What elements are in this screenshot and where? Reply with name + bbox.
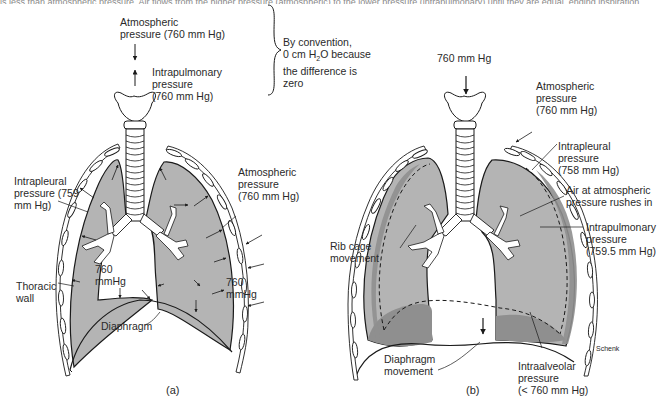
label-intrapulmonary-pressure-b: Intrapulmonary pressure (759.5 mm Hg) bbox=[586, 221, 656, 257]
label-thoracic-wall: Thoracic wall bbox=[16, 280, 56, 304]
panel-a-caption: (a) bbox=[166, 384, 179, 396]
label-intrapulmonary-pressure-a: Intrapulmonary pressure (760 mm Hg) bbox=[152, 66, 222, 102]
label-760-mmhg-b: 760 mm Hg bbox=[437, 52, 491, 64]
label-air-rushes-in: Air at atmospheric pressure rushes in bbox=[566, 184, 652, 208]
label-left-lung-pressure-a: 760 mmHg bbox=[95, 263, 126, 287]
label-rib-cage-movement: Rib cage movement bbox=[330, 240, 379, 264]
panel-b-artwork bbox=[348, 76, 597, 380]
label-atmospheric-pressure-b: Atmospheric pressure (760 mm Hg) bbox=[536, 80, 597, 116]
label-atmospheric-pressure-a-right: Atmospheric pressure (760 mm Hg) bbox=[238, 166, 299, 202]
label-diaphragm: Diaphragm bbox=[101, 320, 152, 332]
artist-signature: Schenk bbox=[596, 345, 619, 353]
label-intraalveolar-pressure: Intraalveolar pressure (< 760 mm Hg) bbox=[518, 360, 588, 396]
panel-b-caption: (b) bbox=[466, 384, 479, 396]
label-intrapleural-pressure-b: Intrapleural pressure (758 mm Hg) bbox=[558, 140, 619, 176]
label-diaphragm-movement: Diaphragm movement bbox=[384, 353, 435, 377]
label-intrapleural-pressure-a: Intrapleural pressure (759 mm Hg) bbox=[14, 175, 79, 211]
label-right-lung-pressure-a: 760 mmHg bbox=[226, 276, 257, 300]
label-atmospheric-pressure-a: Atmospheric pressure (760 mm Hg) bbox=[120, 16, 225, 40]
lung-pressure-diagram: is less than atmospheric pressure. Air f… bbox=[0, 0, 667, 408]
label-convention-note: By convention, 0 cm H2O because the diff… bbox=[283, 36, 371, 89]
